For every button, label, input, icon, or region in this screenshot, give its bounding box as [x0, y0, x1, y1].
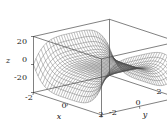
x-tick-0: 0: [61, 101, 66, 110]
surface-plot-figure: 20 0 -20 z -2 0 2 x -2 0 2 y: [0, 0, 167, 124]
z-tick-0: 0: [22, 55, 27, 64]
y-tick-0: 0: [135, 98, 140, 107]
z-tick-20: 20: [17, 37, 27, 46]
surface-mesh: [34, 30, 168, 103]
y-tick-2: 2: [156, 87, 161, 96]
y-axis-label: y: [142, 110, 148, 119]
y-tick-minus-2: -2: [109, 108, 117, 117]
z-axis-label: z: [5, 56, 11, 65]
z-tick-minus-20: -20: [14, 73, 27, 82]
x-tick-2: 2: [98, 110, 103, 119]
x-tick-minus-2: -2: [25, 93, 33, 102]
x-axis-label: x: [57, 112, 62, 121]
plot-canvas: 20 0 -20 z -2 0 2 x -2 0 2 y: [0, 0, 167, 124]
